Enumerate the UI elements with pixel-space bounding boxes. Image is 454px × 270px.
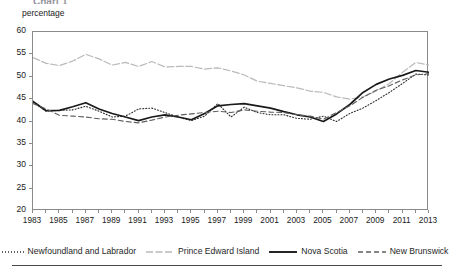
- x-axis-tick-mark: [230, 210, 231, 213]
- x-axis-tick-mark: [256, 210, 257, 213]
- x-axis-tick-mark: [164, 210, 165, 213]
- y-axis-unit-label: percentage: [22, 8, 65, 18]
- legend-label: Newfoundland and Labrador: [28, 246, 146, 256]
- legend-label: Nova Scotia: [301, 246, 357, 256]
- legend-line-swatch: [0, 247, 24, 256]
- y-axis-tick-label: 20: [2, 205, 26, 214]
- x-axis-tick-label: 2013: [413, 215, 443, 225]
- legend-item-prince-edward-island[interactable]: Prince Edward Island: [146, 246, 269, 256]
- x-axis-tick-mark: [415, 210, 416, 213]
- x-axis-tick-mark: [98, 210, 99, 213]
- series-line-nova-scotia: [33, 70, 429, 121]
- x-axis-tick-mark: [322, 210, 323, 213]
- x-axis-tick-mark: [283, 210, 284, 213]
- x-axis-tick-mark: [72, 210, 73, 213]
- x-axis-tick-mark: [177, 210, 178, 213]
- legend-line-swatch: [358, 247, 386, 256]
- legend-label: New Brunswick: [390, 246, 454, 256]
- y-axis-tick-label: 25: [2, 183, 26, 192]
- x-axis-tick-mark: [151, 210, 152, 213]
- line-chart-canvas: [33, 32, 429, 211]
- y-axis-tick-label: 60: [2, 26, 26, 35]
- x-axis-tick-mark: [190, 210, 191, 213]
- x-axis-tick-mark: [362, 210, 363, 213]
- x-axis-tick-mark: [85, 210, 86, 213]
- y-axis-tick-label: 30: [2, 160, 26, 169]
- x-axis-tick-mark: [428, 210, 429, 213]
- y-axis-tick-label: 55: [2, 48, 26, 57]
- x-axis-tick-mark: [336, 210, 337, 213]
- series-line-newfoundland-and-labrador: [33, 74, 429, 121]
- x-axis-tick-mark: [138, 210, 139, 213]
- y-axis-tick-label: 40: [2, 116, 26, 125]
- x-axis-tick-mark: [349, 210, 350, 213]
- legend-label: Prince Edward Island: [178, 246, 269, 256]
- x-axis-tick-mark: [402, 210, 403, 213]
- series-line-prince-edward-island: [33, 54, 429, 99]
- x-axis-tick-mark: [375, 210, 376, 213]
- x-axis-tick-mark: [309, 210, 310, 213]
- chart-legend: Newfoundland and LabradorPrince Edward I…: [0, 243, 454, 259]
- chart-page: Chart 1 percentage 202530354045505560 19…: [0, 0, 454, 270]
- x-axis-tick-mark: [296, 210, 297, 213]
- series-line-new-brunswick: [33, 74, 429, 123]
- clipped-chart-title: Chart 1: [33, 0, 363, 4]
- footer-divider: [12, 265, 442, 266]
- y-axis-tick-label: 50: [2, 71, 26, 80]
- x-axis-tick-mark: [388, 210, 389, 213]
- x-axis-tick-mark: [243, 210, 244, 213]
- x-axis-tick-mark: [32, 210, 33, 213]
- x-axis-tick-mark: [217, 210, 218, 213]
- x-axis-tick-mark: [111, 210, 112, 213]
- y-axis-tick-label: 35: [2, 138, 26, 147]
- x-axis-tick-mark: [58, 210, 59, 213]
- x-axis-tick-mark: [124, 210, 125, 213]
- x-axis-tick-mark: [45, 210, 46, 213]
- legend-item-new-brunswick[interactable]: New Brunswick: [358, 246, 454, 256]
- y-axis-tick-label: 45: [2, 93, 26, 102]
- x-axis-tick-mark: [204, 210, 205, 213]
- plot-area: [32, 31, 428, 210]
- x-axis-tick-mark: [270, 210, 271, 213]
- legend-line-swatch: [146, 247, 174, 256]
- legend-item-nova-scotia[interactable]: Nova Scotia: [269, 246, 357, 256]
- legend-line-swatch: [269, 247, 297, 256]
- legend-item-newfoundland-and-labrador[interactable]: Newfoundland and Labrador: [0, 246, 146, 256]
